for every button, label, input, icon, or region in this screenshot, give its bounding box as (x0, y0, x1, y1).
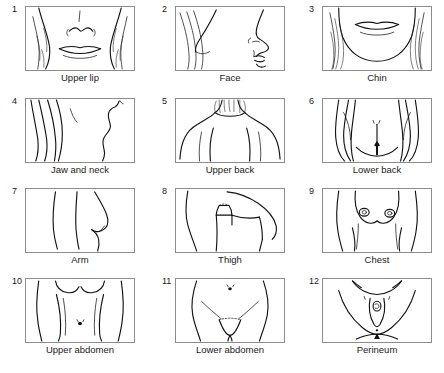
panel-caption: Chest (322, 254, 432, 266)
panel-caption: Arm (25, 254, 135, 266)
thigh-illustration (175, 188, 285, 253)
panel-number: 3 (309, 4, 314, 14)
panel-upper-back[interactable]: 5 (150, 92, 300, 182)
panel-caption: Face (175, 72, 285, 84)
panel-number: 12 (309, 276, 319, 286)
panel-jaw-and-neck[interactable]: 4 Jaw and neck (0, 92, 150, 182)
panel-number: 9 (309, 186, 314, 196)
upper-back-illustration (175, 98, 285, 163)
panel-upper-abdomen[interactable]: 10 Upper abdomen (0, 272, 150, 365)
panel-number: 6 (309, 96, 314, 106)
panel-number: 4 (12, 96, 17, 106)
panel-face[interactable]: 2 Face (150, 0, 300, 92)
lower-back-illustration (322, 98, 432, 163)
panel-caption: Lower back (322, 164, 432, 176)
panel-number: 8 (162, 186, 167, 196)
panel-upper-lip[interactable]: 1 (0, 0, 150, 92)
lower-abdomen-illustration (175, 278, 285, 343)
panel-number: 1 (12, 4, 17, 14)
panel-arm[interactable]: 7 Arm (0, 182, 150, 272)
upper-abdomen-illustration (25, 278, 135, 343)
panel-caption: Upper lip (25, 72, 135, 84)
panel-thigh[interactable]: 8 Thigh (150, 182, 300, 272)
panel-lower-abdomen[interactable]: 11 Lower abdomen (150, 272, 300, 365)
panel-caption: Chin (322, 72, 432, 84)
body-area-figure: 1 (0, 0, 444, 373)
face-profile-illustration (175, 6, 285, 71)
panel-number: 10 (12, 276, 22, 286)
arm-illustration (25, 188, 135, 253)
panel-number: 7 (12, 186, 17, 196)
panel-caption: Upper abdomen (25, 344, 135, 356)
panel-caption: Thigh (175, 254, 285, 266)
panel-perineum[interactable]: 12 Perin (300, 272, 444, 365)
chin-illustration (322, 6, 432, 71)
panel-chest[interactable]: 9 Chest (300, 182, 444, 272)
panel-number: 5 (162, 96, 167, 106)
panel-caption: Perineum (322, 344, 432, 356)
upper-lip-illustration (25, 6, 135, 71)
perineum-illustration (322, 278, 432, 343)
jaw-and-neck-illustration (25, 98, 135, 163)
panel-lower-back[interactable]: 6 Lower back (300, 92, 444, 182)
panel-caption: Upper back (175, 164, 285, 176)
panel-grid: 1 (0, 0, 444, 373)
panel-number: 11 (162, 276, 171, 286)
chest-illustration (322, 188, 432, 253)
panel-caption: Lower abdomen (175, 344, 285, 356)
panel-number: 2 (162, 4, 167, 14)
panel-caption: Jaw and neck (25, 164, 135, 176)
panel-chin[interactable]: 3 Chin (300, 0, 444, 92)
